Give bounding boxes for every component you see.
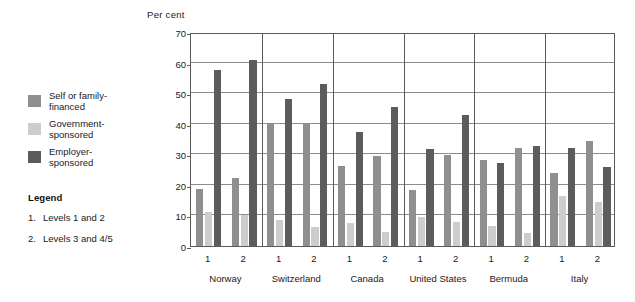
bar — [409, 190, 416, 246]
x-axis: Norway12Switzerland12Canada12United Stat… — [190, 247, 615, 302]
bar — [453, 222, 460, 246]
bar — [426, 149, 433, 246]
bar — [196, 189, 203, 246]
legend-notes: Legend 1. Levels 1 and 2 2. Levels 3 and… — [28, 192, 146, 254]
bar — [267, 123, 274, 247]
legend-note-1: 1. Levels 1 and 2 — [28, 212, 146, 223]
y-tick-label-60: 60 — [175, 60, 186, 70]
y-tick-label-50: 50 — [175, 90, 186, 100]
bar — [214, 70, 221, 246]
bar — [559, 196, 566, 246]
bar — [205, 212, 212, 246]
bar — [480, 160, 487, 246]
bar — [586, 141, 593, 246]
y-tick-label-10: 10 — [175, 213, 186, 223]
legend-note-2-text: Levels 3 and 4/5 — [43, 233, 146, 244]
bar — [462, 115, 469, 246]
plot-area: 010203040506070 — [190, 33, 615, 247]
legend-swatch-self-financed — [28, 95, 41, 107]
bar — [568, 148, 575, 246]
legend-item-self-financed: Self or family- financed — [28, 91, 143, 112]
y-tick-label-40: 40 — [175, 121, 186, 131]
bars-layer — [191, 34, 614, 246]
bar — [249, 60, 256, 246]
x-tick-label-11: 2 — [595, 253, 600, 264]
x-tick-label-7: 2 — [453, 253, 458, 264]
x-group-label-united-states: United States — [409, 273, 466, 284]
series-legend: Self or family- financed Government- spo… — [28, 91, 143, 176]
x-group-label-bermuda: Bermuda — [489, 273, 528, 284]
legend-note-2: 2. Levels 3 and 4/5 — [28, 233, 146, 244]
bar — [524, 233, 531, 246]
x-tick-label-1: 2 — [240, 253, 245, 264]
x-tick-label-6: 1 — [418, 253, 423, 264]
x-tick-label-9: 2 — [524, 253, 529, 264]
bar — [515, 148, 522, 246]
bar — [320, 84, 327, 246]
bar — [347, 223, 354, 246]
x-tick-label-2: 1 — [276, 253, 281, 264]
bar — [373, 156, 380, 246]
bar — [241, 215, 248, 246]
bar — [338, 166, 345, 246]
legend-heading: Legend — [28, 192, 146, 203]
legend-panel: Self or family- financed Government- spo… — [0, 0, 145, 302]
x-tick-label-8: 1 — [488, 253, 493, 264]
legend-note-1-number: 1. — [28, 212, 43, 223]
bar — [418, 217, 425, 246]
y-tick-label-30: 30 — [175, 152, 186, 162]
x-tick-label-3: 2 — [311, 253, 316, 264]
legend-item-employer-sponsored: Employer- sponsored — [28, 147, 143, 168]
legend-label-employer-sponsored: Employer- sponsored — [49, 147, 93, 168]
bar — [391, 107, 398, 246]
legend-label-self-financed: Self or family- financed — [49, 91, 107, 112]
legend-item-government-sponsored: Government- sponsored — [28, 119, 143, 140]
bar — [444, 155, 451, 246]
bar — [303, 123, 310, 246]
legend-swatch-government-sponsored — [28, 123, 41, 135]
x-tick-label-10: 1 — [559, 253, 564, 264]
bar — [550, 173, 557, 246]
x-tick-label-4: 1 — [347, 253, 352, 264]
x-group-label-canada: Canada — [350, 273, 383, 284]
bar — [533, 146, 540, 246]
bar — [497, 163, 504, 246]
bar — [603, 167, 610, 246]
bar — [285, 99, 292, 246]
bar-chart: Per cent 010203040506070 Norway12Switzer… — [145, 0, 635, 302]
bar — [232, 178, 239, 246]
y-axis-title: Per cent — [147, 9, 185, 20]
legend-note-1-text: Levels 1 and 2 — [43, 212, 146, 223]
y-tick-label-20: 20 — [175, 182, 186, 192]
bar — [488, 226, 495, 246]
y-tick-label-0: 0 — [181, 243, 186, 253]
x-tick-label-0: 1 — [205, 253, 210, 264]
bar — [382, 232, 389, 246]
bar — [356, 132, 363, 246]
x-group-label-italy: Italy — [571, 273, 588, 284]
bar — [276, 220, 283, 246]
legend-swatch-employer-sponsored — [28, 151, 41, 163]
legend-note-2-number: 2. — [28, 233, 43, 244]
bar — [311, 227, 318, 246]
y-tick-label-70: 70 — [175, 29, 186, 39]
bar — [595, 202, 602, 246]
x-group-label-switzerland: Switzerland — [272, 273, 321, 284]
x-tick-label-5: 2 — [382, 253, 387, 264]
x-group-label-norway: Norway — [209, 273, 241, 284]
legend-label-government-sponsored: Government- sponsored — [49, 119, 104, 140]
